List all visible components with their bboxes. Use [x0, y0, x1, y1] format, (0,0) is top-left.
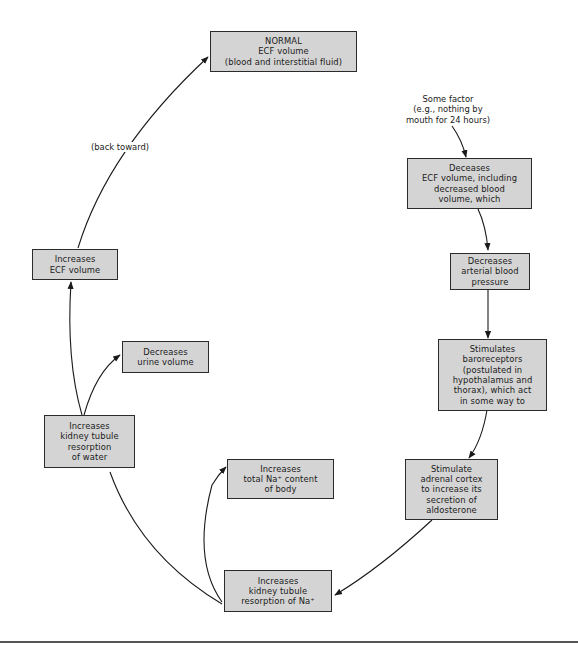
arrow-water-to-urine: [84, 355, 120, 415]
arrow-na-resorption-to-na-content: [204, 467, 226, 602]
bottom-divider-line: [0, 641, 578, 643]
box-increases-water-resorption: Increases kidney tubule resorption of wa…: [44, 415, 135, 468]
arrow-water-to-increases-ecf: [70, 282, 82, 415]
box-increases-total-na-content: Increases total Na⁺ content of body: [227, 459, 334, 499]
aldosterone-feedback-diagram: NORMAL ECF volume (blood and interstitia…: [0, 0, 578, 645]
box-decreases-ecf-volume: Deceases ECF volume, including decreased…: [407, 158, 532, 209]
arrow-decreases-ecf-to-bp: [478, 209, 488, 250]
box-decreases-arterial-bp: Decreases arterial blood pressure: [450, 253, 530, 290]
arrow-increases-ecf-to-normal: [78, 57, 208, 248]
box-decreases-urine-volume: Decreases urine volume: [122, 341, 209, 373]
trigger-label-some-factor: Some factor (e.g., nothing by mouth for …: [388, 94, 508, 125]
connector-na-resorption-to-water: [110, 472, 222, 604]
box-stimulates-baroreceptors: Stimulates baroreceptors (postulated in …: [438, 339, 547, 411]
arrow-trigger-to-decreases-ecf: [452, 126, 466, 157]
box-stimulate-adrenal-cortex: Stimulate adrenal cortex to increase its…: [405, 459, 498, 520]
box-normal-ecf-volume: NORMAL ECF volume (blood and interstitia…: [210, 31, 357, 72]
arrow-adrenal-to-na-resorption: [335, 520, 432, 595]
back-toward-label: (back toward): [86, 142, 154, 152]
box-increases-na-resorption: Increases kidney tubule resorption of Na…: [224, 570, 332, 612]
arrow-baroreceptors-to-adrenal: [469, 410, 487, 458]
box-increases-ecf-volume: Increases ECF volume: [32, 249, 118, 280]
